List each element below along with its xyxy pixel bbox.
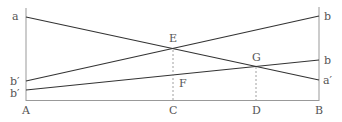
- label-G: G: [252, 51, 261, 64]
- label-b-top: b: [324, 10, 331, 23]
- label-F: F: [179, 77, 187, 90]
- diagram-canvas: a b′ b′ A b b a′ B C D E F G: [0, 0, 342, 122]
- label-A: A: [21, 104, 31, 117]
- line-bprime-b-top: [26, 16, 319, 81]
- label-B: B: [315, 104, 323, 117]
- label-a-prime: a′: [323, 74, 333, 87]
- line-bprime-b-mid: [26, 60, 319, 90]
- label-b-prime-lower: b′: [10, 87, 20, 100]
- label-D: D: [252, 104, 261, 117]
- label-a: a: [12, 10, 19, 23]
- label-C: C: [169, 104, 177, 117]
- label-b-mid: b: [324, 54, 331, 67]
- label-E: E: [169, 32, 177, 45]
